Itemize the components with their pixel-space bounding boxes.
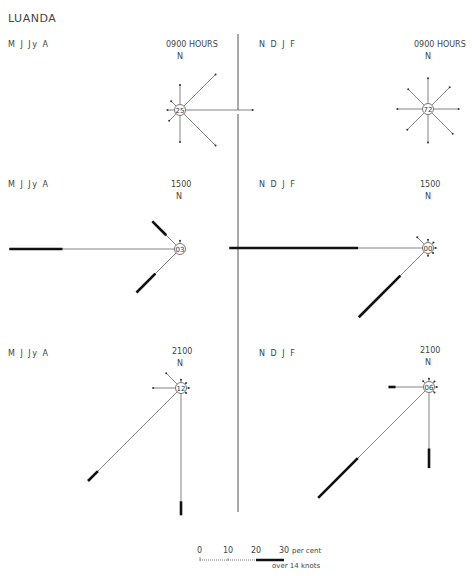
calm-value: 72 [424, 106, 433, 114]
scale-tick-30: 30 [279, 546, 289, 555]
wind-rose-2100-MJJyA: 12 [88, 372, 190, 515]
scale-tick-10: 10 [223, 546, 233, 555]
calm-value: 00 [424, 245, 433, 253]
calm-value: 12 [177, 385, 186, 393]
ray-SE [432, 113, 453, 134]
strong-ray-NW [152, 221, 166, 235]
ray-SW [407, 113, 424, 130]
scale-tick-20: 20 [251, 546, 261, 555]
ray-NW [166, 373, 177, 384]
strong-ray-SW [88, 471, 98, 481]
wind-rose-1500-MJJyA: 03 [9, 221, 185, 292]
calm-value: 25 [176, 107, 185, 115]
wind-rose-plot: 257203001206 [0, 0, 472, 576]
strong-ray-SW [137, 274, 156, 293]
scale-unit: per cent [292, 547, 321, 555]
ray-SW [88, 392, 177, 481]
scale-thick-label: over 14 knots [272, 562, 320, 570]
strong-ray-SW [359, 276, 401, 318]
calm-value: 03 [176, 246, 185, 254]
ray-NW [171, 101, 176, 106]
ray-NE [432, 87, 450, 105]
ray-NW [408, 89, 424, 105]
wind-rose-1500-NDJF: 00 [229, 236, 436, 317]
wind-rose-2100-NDJF: 06 [318, 378, 438, 498]
scale-tick-0: 0 [197, 546, 202, 555]
wind-rose-0900-MJJyA: 25 [167, 73, 254, 146]
scale-bar [200, 557, 284, 561]
ray-SW [169, 114, 176, 121]
ray-SE [184, 114, 216, 146]
calm-value: 06 [425, 384, 434, 392]
strong-ray-SW [318, 458, 358, 498]
ray-NE [184, 74, 216, 106]
ray-NW [417, 237, 424, 244]
wind-rose-0900-NDJF: 72 [396, 77, 459, 143]
